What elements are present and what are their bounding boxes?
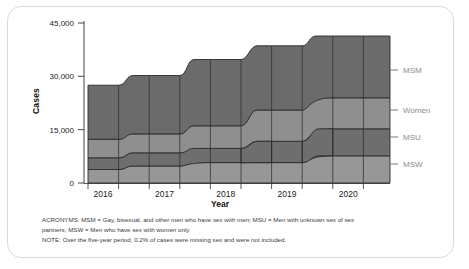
x-tick-label-2016: 2016	[94, 189, 113, 199]
y-tick-label-30000: 30,000	[50, 72, 75, 81]
legend-label-women[interactable]: Women	[403, 106, 430, 115]
y-tick-label-15000: 15,000	[50, 126, 75, 135]
x-tick-label-2017: 2017	[155, 189, 174, 199]
chart-footnote: ACRONYMS: MSM = Gay, bisexual, and other…	[42, 215, 432, 245]
legend-label-msw[interactable]: MSW	[403, 160, 423, 169]
y-axis-ticks	[78, 23, 84, 183]
footnote-acronyms-line2: partners; MSW = Men who have sex with wo…	[42, 225, 432, 235]
chart-container: Cases Year 45,000 30,000 15,000 0	[0, 0, 469, 269]
y-tick-label-45000: 45,000	[50, 19, 75, 28]
footnote-acronyms-line1: ACRONYMS: MSM = Gay, bisexual, and other…	[42, 215, 432, 225]
legend: MSM Women MSU MSW	[390, 66, 430, 169]
x-tick-label-2020: 2020	[339, 189, 358, 199]
legend-label-msu[interactable]: MSU	[403, 133, 421, 142]
legend-label-msm[interactable]: MSM	[403, 66, 422, 75]
footnote-note: NOTE: Over the five-year period, 0.2% of…	[42, 235, 432, 245]
x-tick-label-2018: 2018	[216, 189, 235, 199]
y-tick-label-0: 0	[70, 179, 75, 188]
x-tick-label-2019: 2019	[278, 189, 297, 199]
